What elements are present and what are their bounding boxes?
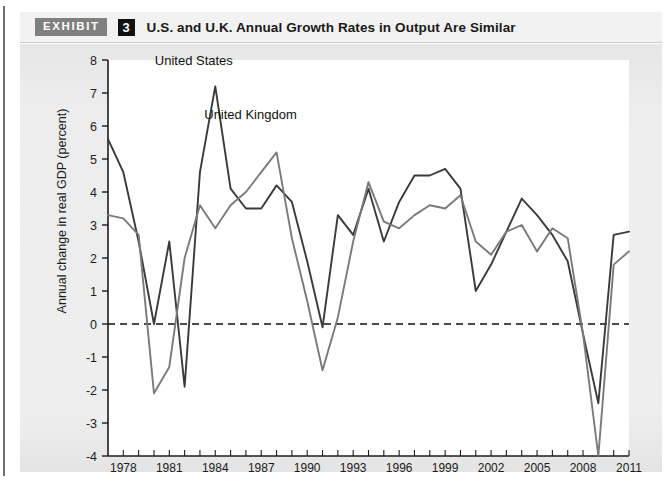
svg-text:3: 3 [90,219,97,233]
svg-text:1984: 1984 [202,461,229,472]
svg-text:7: 7 [90,87,97,101]
svg-text:1981: 1981 [156,461,183,472]
svg-text:1987: 1987 [248,461,275,472]
exhibit-tag-label: EXHIBIT [35,18,107,36]
svg-text:-3: -3 [86,417,97,431]
series-label-united-states: United States [155,53,234,68]
svg-text:-1: -1 [86,351,97,365]
svg-text:-2: -2 [86,384,97,398]
growth-rates-line-chart: 876543210-1-2-3-4 1978198119841987199019… [20,44,662,472]
series-annotations: United StatesUnited Kingdom [155,53,297,122]
svg-text:1996: 1996 [386,461,413,472]
svg-text:1993: 1993 [340,461,367,472]
svg-text:1990: 1990 [294,461,321,472]
chart-axes [108,60,629,456]
svg-text:2: 2 [90,252,97,266]
exhibit-title: U.S. and U.K. Annual Growth Rates in Out… [147,20,516,35]
svg-text:0: 0 [90,318,97,332]
svg-text:8: 8 [90,54,97,68]
svg-text:1978: 1978 [110,461,137,472]
svg-text:2008: 2008 [570,461,597,472]
x-axis-ticks: 1978198119841987199019931996199920022005… [110,450,642,472]
y-axis-ticks: 876543210-1-2-3-4 [86,54,108,464]
svg-text:6: 6 [90,120,97,134]
svg-text:2011: 2011 [616,461,642,472]
figure-panel: Annual change in real GDP (percent) 8765… [20,44,662,472]
series-line-united-states [108,86,629,403]
svg-text:1: 1 [90,285,97,299]
svg-text:4: 4 [90,186,97,200]
exhibit-page: EXHIBIT 3 U.S. and U.K. Annual Growth Ra… [0,0,670,482]
exhibit-number-badge: 3 [118,19,135,36]
svg-text:2002: 2002 [478,461,505,472]
page-left-rule [3,6,5,476]
series-label-united-kingdom: United Kingdom [204,107,297,122]
svg-text:2005: 2005 [524,461,551,472]
series-line-united-kingdom [108,152,629,456]
svg-text:5: 5 [90,153,97,167]
chart-series-lines [108,86,629,456]
exhibit-header: EXHIBIT 3 U.S. and U.K. Annual Growth Ra… [20,12,662,43]
svg-text:-4: -4 [86,450,97,464]
svg-text:1999: 1999 [432,461,459,472]
